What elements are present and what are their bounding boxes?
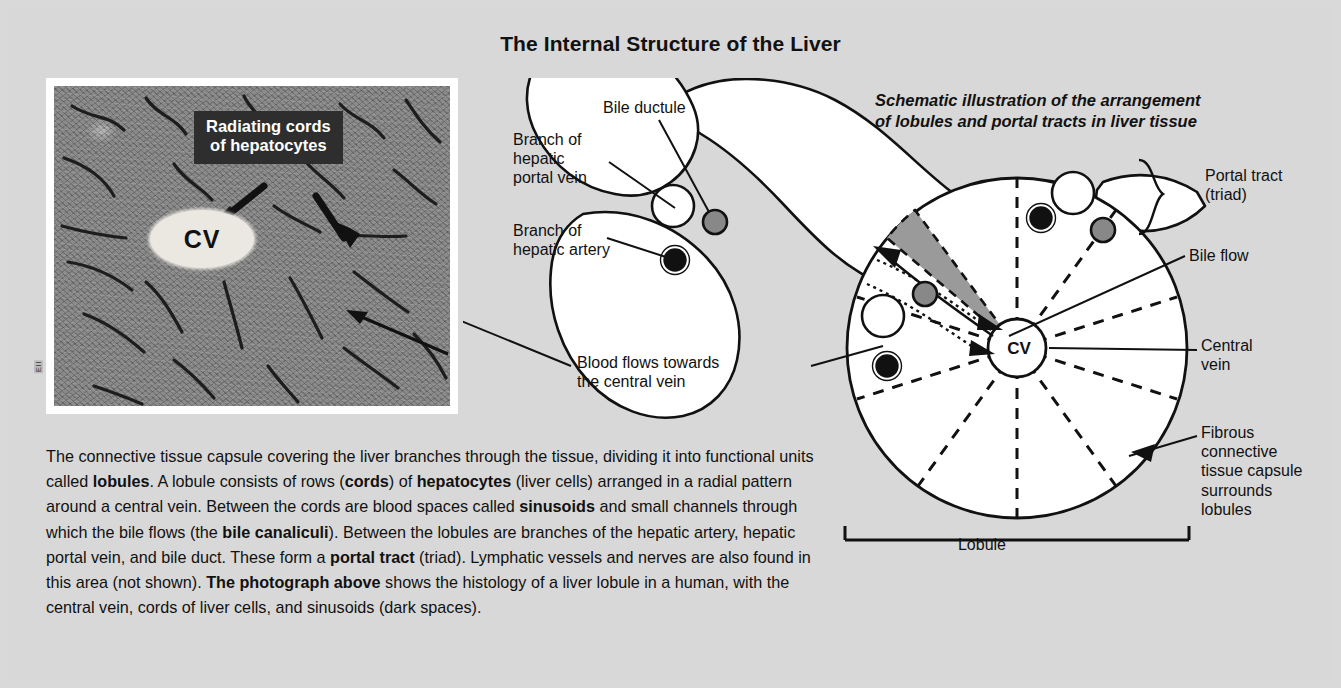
label-bile-flow: Bile flow: [1189, 246, 1249, 265]
label-hepatic-portal-vein: Branch of hepatic portal vein: [513, 130, 587, 188]
image-credit: EII: [34, 360, 43, 373]
body-paragraph: The connective tissue capsule covering t…: [46, 444, 836, 620]
label-hepatic-artery: Branch of hepatic artery: [513, 221, 610, 259]
schematic-heading: Schematic illustration of the arrangemen…: [875, 90, 1315, 131]
label-lobule: Lobule: [922, 535, 1042, 554]
label-fibrous-capsule: Fibrous connective tissue capsule surrou…: [1201, 423, 1302, 519]
schematic-central-vein-label: CV: [999, 334, 1039, 364]
label-central-vein: Central vein: [1201, 336, 1253, 374]
micrograph-frame: CV Radiating cords of hepatocytes: [46, 78, 458, 414]
poster-background: The Internal Structure of the Liver: [8, 8, 1333, 680]
label-portal-tract: Portal tract (triad): [1205, 166, 1282, 204]
micrograph-central-vein-label: CV: [150, 210, 254, 268]
label-bile-ductule: Bile ductule: [603, 98, 686, 117]
radiating-cords-callout: Radiating cords of hepatocytes: [194, 111, 343, 164]
page-title: The Internal Structure of the Liver: [8, 32, 1333, 56]
poster-page: The Internal Structure of the Liver: [0, 0, 1341, 688]
micrograph-image: CV Radiating cords of hepatocytes: [54, 86, 450, 406]
label-blood-flow: Blood flows towards the central vein: [577, 353, 719, 391]
